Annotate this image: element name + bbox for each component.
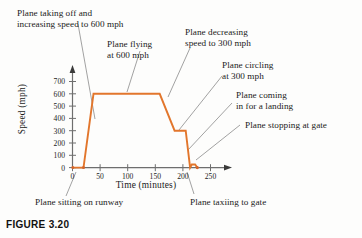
y-axis-title: Speed (mph) bbox=[17, 69, 27, 149]
x-tick-label-150: 150 bbox=[145, 172, 165, 181]
x-tick-label-100: 100 bbox=[118, 172, 138, 181]
annotation-circling: Plane circling at 300 mph bbox=[222, 60, 273, 82]
y-tick-label-200: 200 bbox=[43, 139, 65, 148]
figure-caption: FIGURE 3.20 bbox=[6, 219, 69, 230]
annotation-taxiing: Plane taxiing to gate bbox=[190, 197, 266, 208]
annotation-taking-off: Plane taking off and increasing speed to… bbox=[17, 8, 123, 30]
annotation-landing: Plane coming in for a landing bbox=[236, 90, 293, 112]
y-tick-label-300: 300 bbox=[43, 127, 65, 136]
annotation-flying: Plane flying at 600 mph bbox=[107, 39, 152, 61]
y-tick-label-100: 100 bbox=[43, 151, 65, 160]
x-tick-label-250: 250 bbox=[201, 172, 221, 181]
leader-decreasing bbox=[168, 48, 190, 97]
x-tick-label-50: 50 bbox=[90, 172, 110, 181]
x-tick-label-200: 200 bbox=[173, 172, 193, 181]
annotation-decreasing: Plane decreasing speed to 300 mph bbox=[185, 27, 251, 49]
annotation-sitting: Plane sitting on runway bbox=[35, 197, 123, 208]
y-axis-arrow bbox=[70, 65, 76, 73]
figure-container: Speed (mph) Time (minutes) 0 100 200 300… bbox=[0, 0, 362, 238]
x-tick-label-0: 0 bbox=[63, 172, 83, 181]
leader-stopping bbox=[196, 125, 240, 160]
x-axis-arrow bbox=[224, 165, 232, 171]
curve-point-end bbox=[196, 166, 199, 169]
annotation-stopping: Plane stopping at gate bbox=[245, 120, 327, 131]
y-tick-label-400: 400 bbox=[43, 114, 65, 123]
y-tick-label-500: 500 bbox=[43, 102, 65, 111]
leader-circling bbox=[179, 76, 222, 130]
y-tick-label-700: 700 bbox=[43, 77, 65, 86]
speed-curve bbox=[73, 94, 198, 168]
curve-point-start bbox=[71, 166, 74, 169]
x-axis-title: Time (minutes) bbox=[86, 180, 206, 190]
curve-point-takeoff bbox=[82, 166, 85, 169]
y-tick-label-600: 600 bbox=[43, 90, 65, 99]
